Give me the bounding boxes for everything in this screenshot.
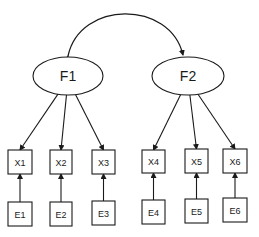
factor-model-diagram: F1F2X1X2X3X4X5X6E1E2E3E4E5E6 — [0, 0, 259, 237]
error-label: E3 — [98, 209, 109, 219]
indicator-label: X6 — [229, 157, 240, 167]
error-label: E2 — [55, 210, 66, 220]
factor-node-f1: F1 — [33, 57, 103, 95]
indicator-node-x2: X2 — [50, 150, 72, 174]
indicator-node-x4: X4 — [142, 150, 165, 173]
indicator-label: X5 — [191, 157, 202, 167]
indicator-node-x6: X6 — [223, 149, 247, 173]
error-node-e2: E2 — [50, 202, 72, 226]
factor-node-f2: F2 — [152, 57, 224, 95]
covariance-arc — [68, 14, 183, 56]
loading-arrow-x4 — [154, 94, 181, 150]
error-label: E4 — [148, 208, 159, 218]
loading-arrow-x2 — [61, 95, 66, 150]
nodes: F1F2X1X2X3X4X5X6E1E2E3E4E5E6 — [8, 57, 247, 226]
factor-label: F2 — [180, 68, 197, 84]
indicator-node-x3: X3 — [92, 150, 115, 174]
loading-arrow-x6 — [198, 94, 235, 149]
factor-label: F1 — [60, 68, 77, 84]
error-node-e6: E6 — [223, 198, 247, 222]
edges — [20, 94, 235, 202]
indicator-node-x5: X5 — [185, 149, 208, 173]
error-node-e4: E4 — [142, 200, 165, 224]
diagram-canvas: F1F2X1X2X3X4X5X6E1E2E3E4E5E6 — [0, 0, 259, 237]
indicator-label: X2 — [55, 158, 66, 168]
error-label: E1 — [14, 210, 25, 220]
loading-arrow-x3 — [75, 94, 103, 150]
indicator-label: X3 — [98, 158, 109, 168]
error-node-e5: E5 — [185, 199, 208, 223]
loading-arrow-x1 — [20, 94, 58, 150]
error-node-e3: E3 — [92, 201, 115, 225]
indicator-label: X4 — [148, 157, 159, 167]
loading-arrow-x5 — [190, 95, 197, 149]
indicator-label: X1 — [14, 158, 25, 168]
error-node-e1: E1 — [8, 202, 32, 226]
indicator-node-x1: X1 — [8, 150, 32, 174]
error-label: E5 — [191, 207, 202, 217]
error-label: E6 — [229, 206, 240, 216]
